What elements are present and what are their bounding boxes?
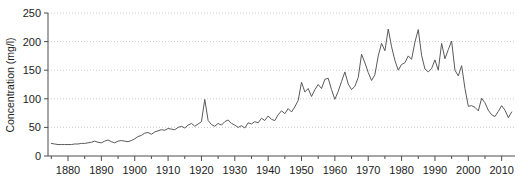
y-tick-label-150: 150 xyxy=(23,64,41,76)
y-tick-label-100: 100 xyxy=(23,93,41,105)
x-tick-label-1960: 1960 xyxy=(323,164,347,176)
x-tick-label-2010: 2010 xyxy=(489,164,513,176)
chart-background xyxy=(0,0,528,188)
concentration-time-series-chart: 050100150200250 188018901900191019201930… xyxy=(0,0,528,188)
x-tick-label-1910: 1910 xyxy=(156,164,180,176)
x-tick-label-1920: 1920 xyxy=(189,164,213,176)
y-tick-label-0: 0 xyxy=(35,150,41,162)
x-tick-label-1940: 1940 xyxy=(256,164,280,176)
x-tick-label-1930: 1930 xyxy=(223,164,247,176)
x-tick-label-2000: 2000 xyxy=(456,164,480,176)
x-tick-label-1980: 1980 xyxy=(389,164,413,176)
y-tick-label-250: 250 xyxy=(23,7,41,19)
x-tick-label-1950: 1950 xyxy=(289,164,313,176)
x-tick-label-1990: 1990 xyxy=(423,164,447,176)
chart-figure: 050100150200250 188018901900191019201930… xyxy=(0,0,528,188)
x-tick-label-1900: 1900 xyxy=(122,164,146,176)
x-tick-label-1970: 1970 xyxy=(356,164,380,176)
y-axis-title: Concentration (mg/l) xyxy=(4,37,16,132)
x-tick-label-1890: 1890 xyxy=(89,164,113,176)
y-tick-label-50: 50 xyxy=(29,121,41,133)
y-tick-label-200: 200 xyxy=(23,36,41,48)
x-tick-label-1880: 1880 xyxy=(56,164,80,176)
